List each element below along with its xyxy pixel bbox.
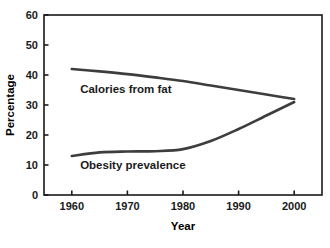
y-axis-title: Percentage bbox=[4, 74, 16, 136]
series-label-obesity-prevalence: Obesity prevalence bbox=[80, 159, 185, 171]
line-chart: 010203040506019601970198019902000YearPer… bbox=[0, 0, 330, 248]
x-axis-tick-label: 1990 bbox=[226, 200, 250, 212]
y-axis-tick-label: 10 bbox=[26, 159, 38, 171]
y-axis-tick-label: 20 bbox=[26, 129, 38, 141]
y-axis-tick-label: 60 bbox=[26, 9, 38, 21]
y-axis-tick-label: 40 bbox=[26, 69, 38, 81]
x-axis-tick-label: 1960 bbox=[60, 200, 84, 212]
chart-container: 010203040506019601970198019902000YearPer… bbox=[0, 0, 330, 248]
x-axis-tick-label: 1970 bbox=[115, 200, 139, 212]
y-axis-tick-label: 0 bbox=[32, 189, 38, 201]
series-label-calories-from-fat: Calories from fat bbox=[80, 83, 172, 95]
y-axis-tick-label: 50 bbox=[26, 39, 38, 51]
x-axis-title: Year bbox=[171, 220, 196, 232]
x-axis-tick-label: 2000 bbox=[282, 200, 306, 212]
y-axis-tick-label: 30 bbox=[26, 99, 38, 111]
x-axis-tick-label: 1980 bbox=[171, 200, 195, 212]
